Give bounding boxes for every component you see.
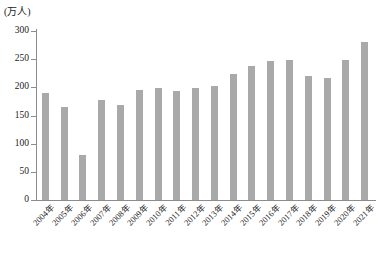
y-axis-tick-label: 200 xyxy=(0,82,29,92)
bar xyxy=(248,66,255,200)
bar xyxy=(305,76,312,200)
y-axis-tick-label: 50 xyxy=(0,167,29,177)
y-axis-tick-label-text: 300 xyxy=(1,26,29,36)
bar xyxy=(79,155,86,200)
bar xyxy=(192,88,199,200)
y-axis-tick-label: 0 xyxy=(0,195,29,205)
y-axis-tick-label: 300 xyxy=(0,26,29,36)
bar xyxy=(173,91,180,200)
bar xyxy=(361,42,368,200)
bar-chart: (万人) 050100150200250300 2004年2005年2006年2… xyxy=(0,0,378,260)
bar xyxy=(267,61,274,200)
y-axis-unit-label: (万人) xyxy=(4,6,31,18)
bar xyxy=(98,100,105,200)
y-axis-tick-label: 150 xyxy=(0,111,29,121)
y-axis-tick-label-text: 50 xyxy=(1,167,29,177)
bar xyxy=(342,60,349,200)
bar xyxy=(117,105,124,200)
y-axis-tick-label-text: 100 xyxy=(1,139,29,149)
y-axis-tick-label: 250 xyxy=(0,54,29,64)
bar xyxy=(42,93,49,200)
bar xyxy=(324,78,331,200)
y-axis-tick-label-text: 200 xyxy=(1,82,29,92)
y-axis-tick-label-text: 250 xyxy=(1,54,29,64)
y-axis-tick-label: 100 xyxy=(0,139,29,149)
bar xyxy=(211,86,218,200)
bar xyxy=(286,60,293,200)
bar xyxy=(61,107,68,200)
plot-area xyxy=(36,31,374,200)
x-axis-line xyxy=(36,200,376,201)
bar xyxy=(230,74,237,200)
y-axis-tick-label-text: 150 xyxy=(1,111,29,121)
bar xyxy=(155,88,162,200)
y-axis-tick-label-text: 0 xyxy=(1,195,29,205)
y-axis-tick xyxy=(31,200,36,201)
bar xyxy=(136,90,143,200)
